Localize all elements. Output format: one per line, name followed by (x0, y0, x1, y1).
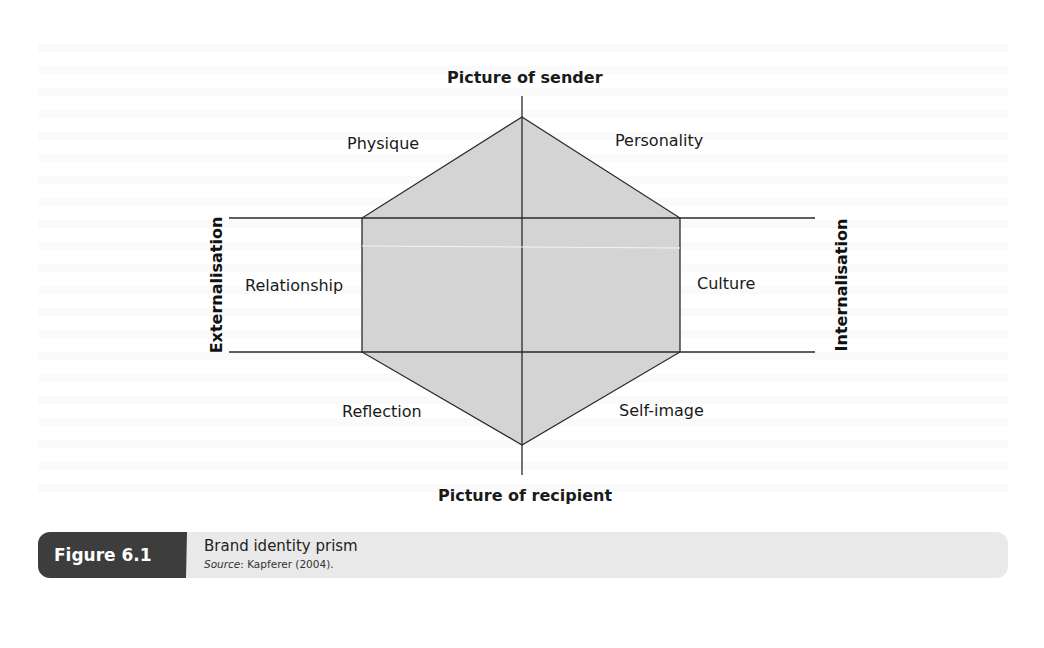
facet-self-image: Self-image (619, 403, 704, 419)
figure-title: Brand identity prism (204, 537, 358, 555)
axis-label-bottom: Picture of recipient (438, 488, 612, 504)
facet-reflection: Reflection (342, 404, 422, 420)
source-prefix: Source (204, 558, 240, 570)
source-text: : Kapferer (2004). (240, 558, 333, 570)
facet-personality: Personality (615, 133, 703, 149)
facet-culture: Culture (697, 276, 755, 292)
prism-hexagon (362, 117, 680, 445)
facet-relationship: Relationship (245, 278, 343, 294)
figure-number: Figure 6.1 (54, 545, 152, 565)
axis-label-top: Picture of sender (447, 70, 603, 86)
axis-label-right: Internalisation (834, 215, 850, 355)
facet-physique: Physique (347, 136, 419, 152)
figure-number-tab: Figure 6.1 (38, 532, 186, 578)
figure-source: Source: Kapferer (2004). (204, 558, 334, 570)
axis-label-left: Externalisation (209, 215, 225, 355)
